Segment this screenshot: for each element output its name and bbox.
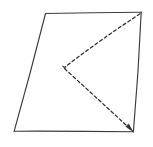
quad-top-edge	[46, 12, 142, 13]
outer-quadrilateral-group	[14, 12, 141, 132]
quad-right-edge	[133, 12, 141, 132]
arrowhead-icon	[126, 124, 133, 132]
dashed-chevron-group	[63, 14, 140, 132]
quad-bottom-edge	[14, 131, 133, 132]
dashed-upper-segment	[65, 14, 140, 67]
dashed-lower-segment	[65, 69, 132, 131]
figure-canvas	[0, 0, 153, 147]
quad-left-edge	[14, 14, 45, 132]
diagram-svg	[0, 0, 153, 147]
